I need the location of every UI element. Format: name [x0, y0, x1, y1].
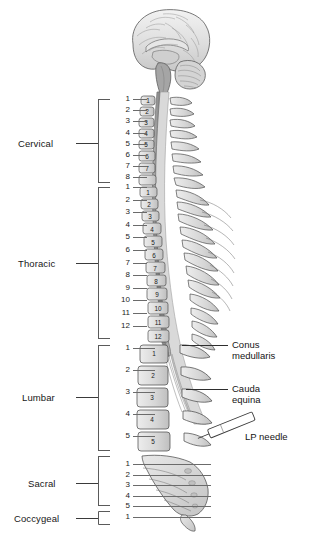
segment-tick-thoracic-7	[133, 263, 147, 264]
region-bracket-coccygeal	[98, 511, 99, 525]
segment-number-thoracic-7: 7	[116, 259, 130, 267]
segment-tick-lumbar-1	[133, 348, 155, 349]
segment-number-lumbar-5: 5	[116, 432, 130, 440]
segment-tick-cervical-1	[133, 99, 147, 100]
region-bracket-lumbar	[98, 345, 99, 451]
segment-number-thoracic-5: 5	[116, 233, 130, 241]
segment-number-thoracic-8: 8	[116, 271, 130, 279]
svg-text:10: 10	[154, 305, 162, 312]
segment-tick-sacral-4	[133, 496, 211, 497]
region-label-lumbar: Lumbar	[22, 392, 55, 403]
segment-tick-thoracic-10	[133, 300, 147, 301]
callout-cauda-equina: Cauda equina	[232, 383, 261, 405]
segment-number-thoracic-2: 2	[116, 196, 130, 204]
segment-number-thoracic-12: 12	[116, 322, 130, 330]
segment-number-sacral-2: 2	[116, 471, 130, 479]
segment-number-thoracic-11: 11	[116, 309, 130, 317]
region-bracket-cervical	[98, 99, 99, 183]
segment-tick-thoracic-6	[133, 250, 147, 251]
segment-number-thoracic-10: 10	[116, 296, 130, 304]
segment-tick-cervical-2	[133, 110, 147, 111]
svg-text:9: 9	[155, 291, 159, 298]
segment-tick-thoracic-12	[133, 326, 147, 327]
segment-tick-cervical-6	[133, 155, 147, 156]
segment-tick-sacral-3	[133, 485, 211, 486]
segment-tick-coccygeal-1	[133, 517, 211, 518]
segment-number-lumbar-2: 2	[116, 366, 130, 374]
segment-number-cervical-4: 4	[116, 129, 130, 137]
svg-text:11: 11	[155, 319, 162, 326]
segment-tick-thoracic-5	[133, 237, 147, 238]
segment-number-thoracic-9: 9	[116, 284, 130, 292]
segment-tick-cervical-5	[133, 144, 147, 145]
segment-number-cervical-7: 7	[116, 162, 130, 170]
svg-text:7: 7	[153, 265, 157, 272]
segment-number-coccygeal-1: 1	[116, 513, 130, 521]
segment-tick-thoracic-1	[133, 187, 147, 188]
svg-text:6: 6	[152, 252, 156, 259]
region-dash-thoracic	[76, 263, 98, 264]
segment-number-cervical-1: 1	[116, 95, 130, 103]
svg-text:4: 4	[150, 416, 154, 423]
region-dash-coccygeal	[76, 518, 98, 519]
svg-text:5: 5	[151, 438, 155, 445]
segment-number-cervical-8: 8	[116, 173, 130, 181]
segment-tick-lumbar-4	[133, 414, 155, 415]
segment-tick-thoracic-11	[133, 313, 147, 314]
cervical-vertebrae	[139, 96, 205, 188]
segment-tick-thoracic-8	[133, 275, 147, 276]
segment-tick-thoracic-3	[133, 212, 147, 213]
brain-group	[133, 10, 210, 93]
svg-text:1: 1	[146, 189, 150, 196]
region-bracket-sacral	[98, 456, 99, 506]
segment-number-thoracic-1: 1	[116, 183, 130, 191]
callout-lp-needle: LP needle	[245, 431, 288, 442]
svg-text:4: 4	[150, 226, 154, 233]
segment-tick-cervical-7	[133, 166, 147, 167]
segment-number-cervical-6: 6	[116, 151, 130, 159]
svg-text:12: 12	[154, 333, 162, 340]
leader-cauda-equina	[186, 389, 228, 390]
svg-text:8: 8	[154, 278, 158, 285]
spinal-cord-diagram: 1 2 3 4 5 6 7 1 2 3 4 5 6 7 8 9 10 11 12…	[0, 0, 310, 536]
callout-conus-medullaris: Conus medullaris	[232, 339, 275, 361]
segment-tick-thoracic-4	[133, 225, 147, 226]
segment-number-sacral-4: 4	[116, 492, 130, 500]
segment-tick-cervical-4	[133, 133, 147, 134]
segment-number-thoracic-6: 6	[116, 246, 130, 254]
svg-text:2: 2	[151, 372, 155, 379]
region-dash-lumbar	[76, 397, 98, 398]
segment-tick-cervical-3	[133, 121, 147, 122]
segment-tick-sacral-2	[133, 475, 211, 476]
svg-text:5: 5	[151, 239, 155, 246]
region-dash-cervical	[76, 143, 98, 144]
region-label-coccygeal: Coccygeal	[14, 513, 59, 524]
segment-tick-sacral-5	[133, 506, 211, 507]
segment-number-lumbar-3: 3	[116, 388, 130, 396]
region-label-sacral: Sacral	[28, 478, 56, 489]
segment-number-lumbar-1: 1	[116, 344, 130, 352]
svg-text:3: 3	[148, 213, 152, 220]
segment-tick-lumbar-2	[133, 370, 155, 371]
segment-number-thoracic-3: 3	[116, 208, 130, 216]
segment-tick-thoracic-2	[133, 200, 147, 201]
region-label-thoracic: Thoracic	[18, 258, 55, 269]
segment-number-sacral-3: 3	[116, 481, 130, 489]
segment-number-cervical-2: 2	[116, 106, 130, 114]
segment-tick-thoracic-9	[133, 288, 147, 289]
svg-text:2: 2	[147, 201, 151, 208]
segment-tick-sacral-1	[133, 464, 211, 465]
segment-number-cervical-5: 5	[116, 140, 130, 148]
svg-text:1: 1	[152, 350, 156, 357]
segment-number-sacral-5: 5	[116, 502, 130, 510]
svg-text:2: 2	[145, 108, 149, 115]
segment-tick-cervical-8	[133, 177, 147, 178]
segment-tick-lumbar-5	[133, 436, 155, 437]
segment-number-thoracic-4: 4	[116, 221, 130, 229]
svg-text:3: 3	[150, 394, 154, 401]
segment-number-lumbar-4: 4	[116, 410, 130, 418]
segment-number-cervical-3: 3	[116, 117, 130, 125]
region-dash-sacral	[76, 483, 98, 484]
region-bracket-thoracic	[98, 187, 99, 339]
region-label-cervical: Cervical	[18, 138, 53, 149]
